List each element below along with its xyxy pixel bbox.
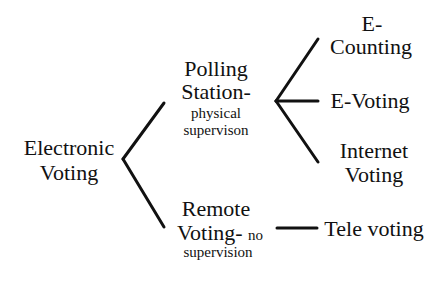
node-label-line: Voting- <box>177 220 243 245</box>
polling-station-bracket <box>276 39 318 162</box>
edge-to-remote-voting <box>123 159 164 227</box>
node-e-voting: E-Voting <box>330 88 409 113</box>
node-label-line: Station- <box>181 79 251 104</box>
edge-to-internet-voting <box>276 101 318 162</box>
node-e-counting: E- Counting <box>330 11 412 59</box>
node-sublabel-line: supervison <box>184 122 249 138</box>
node-label-line: E- <box>362 11 383 36</box>
node-label-line: E-Voting <box>330 88 409 113</box>
node-electronic-voting: Electronic Voting <box>24 135 115 185</box>
node-label-line: Counting <box>330 34 412 59</box>
root-bracket <box>123 103 164 227</box>
node-sublabel-line: physical <box>191 105 241 121</box>
node-label-line: Voting <box>345 162 403 187</box>
node-label-line: Polling <box>184 56 248 81</box>
node-label-line: Remote <box>182 196 250 221</box>
voting-tree-diagram: Electronic Voting Polling Station- physi… <box>0 0 446 281</box>
node-label-line: Voting <box>40 160 98 185</box>
node-sublabel-line: supervision <box>183 244 253 260</box>
node-inline-note: no <box>248 227 263 243</box>
node-remote-voting: Remote Voting- no supervision <box>177 196 263 260</box>
node-label-line: Electronic <box>24 135 115 160</box>
node-tele-voting: Tele voting <box>324 216 423 241</box>
node-label-line: Tele voting <box>324 216 423 241</box>
edge-to-polling-station <box>123 103 164 159</box>
edge-to-e-counting <box>276 39 318 101</box>
node-label-line: Internet <box>340 138 408 163</box>
node-polling-station: Polling Station- physical supervison <box>181 56 251 138</box>
node-internet-voting: Internet Voting <box>340 138 408 187</box>
